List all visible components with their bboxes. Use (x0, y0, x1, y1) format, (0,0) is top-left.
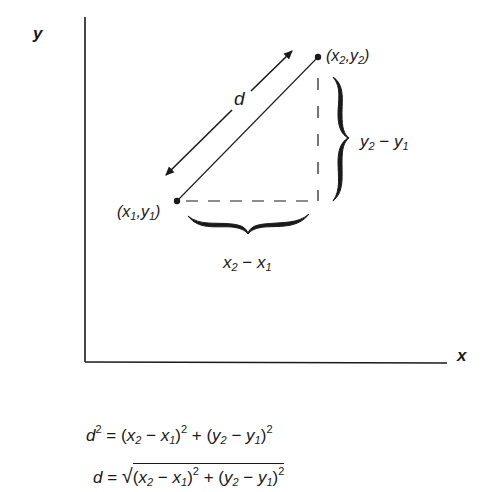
distance-arrow-upper (251, 51, 292, 91)
dx-label: x2 − x1 (223, 253, 272, 273)
equation-distance: d = √(x2 − x1)2 + (y2 − y1)2 (93, 443, 284, 488)
operator: − (239, 468, 258, 487)
var: y (350, 47, 358, 64)
radicand: (x2 − x1)2 + (y2 − y1)2 (133, 463, 285, 488)
point-1-label: (x1,y1) (117, 203, 160, 222)
equation-distance-squared: d2 = (x2 − x1)2 + (y2 − y1)2 (86, 403, 273, 446)
operator: − (375, 132, 394, 151)
equals: = (102, 468, 121, 487)
var: x (257, 253, 266, 272)
x-axis (85, 362, 447, 363)
paren: ) (155, 203, 160, 220)
point-2-dot (315, 54, 321, 60)
point-2-label: (x2,y2) (326, 47, 369, 66)
var: x (223, 253, 232, 272)
vertical-brace (333, 77, 349, 201)
operator: + (199, 468, 218, 487)
paren: ) (364, 47, 369, 64)
var: y (360, 132, 369, 151)
operator: − (153, 468, 172, 487)
hypotenuse-line (177, 57, 318, 201)
superscript: 2 (266, 423, 272, 435)
dy-label: y2 − y1 (360, 132, 409, 152)
operator: − (238, 253, 257, 272)
distance-arrow-lower (166, 110, 232, 175)
distance-label: d (234, 88, 245, 110)
superscript: 2 (278, 465, 284, 477)
var: y (141, 203, 149, 220)
x-axis-label: x (457, 346, 466, 366)
y-axis-label: y (33, 24, 42, 44)
subscript: 1 (266, 261, 272, 273)
sqrt-radical-icon: √ (122, 465, 133, 487)
horizontal-brace (188, 214, 309, 234)
subscript: 1 (403, 140, 409, 152)
var: x (139, 468, 148, 487)
var: x (173, 468, 182, 487)
var: y (394, 132, 403, 151)
point-1-dot (174, 198, 180, 204)
